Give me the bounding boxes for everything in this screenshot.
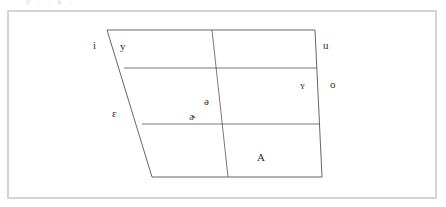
vowel-quadrilateral-svg [0, 0, 446, 207]
vowel-point-small-cap-y: ʏ [300, 80, 305, 91]
vowel-point-rhotic-schwa: ɚ [189, 111, 196, 122]
vowel-point-i: i [93, 40, 96, 51]
vowel-point-epsilon: ɛ [112, 108, 117, 119]
vowel-point-a: A [257, 152, 265, 163]
vowel-point-u: u [323, 40, 329, 51]
vowel-quadrilateral-diagram [0, 0, 446, 207]
vowel-point-y: y [120, 41, 126, 52]
quadrilateral-gridlines [124, 30, 320, 177]
gridline-vertical-center [212, 30, 228, 177]
vowel-chart-page: p . . g , i y u ʏ o ɛ ə ɚ A [0, 0, 446, 207]
vowel-point-schwa: ə [204, 96, 209, 107]
vowel-point-o: o [330, 79, 336, 90]
